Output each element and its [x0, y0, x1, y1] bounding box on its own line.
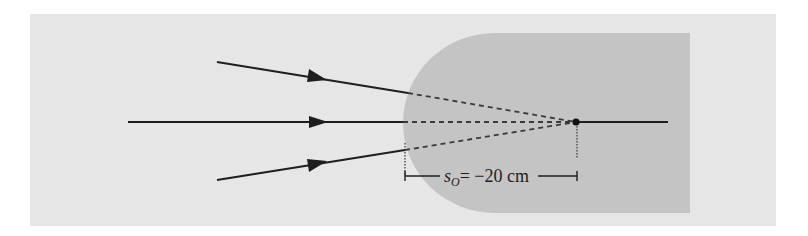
distance-symbol: s: [444, 166, 451, 186]
refraction-diagram: sO= −20 cm: [0, 0, 808, 236]
distance-value: = −20 cm: [460, 166, 529, 186]
object-point: [572, 118, 579, 125]
distance-subscript: O: [451, 175, 460, 189]
